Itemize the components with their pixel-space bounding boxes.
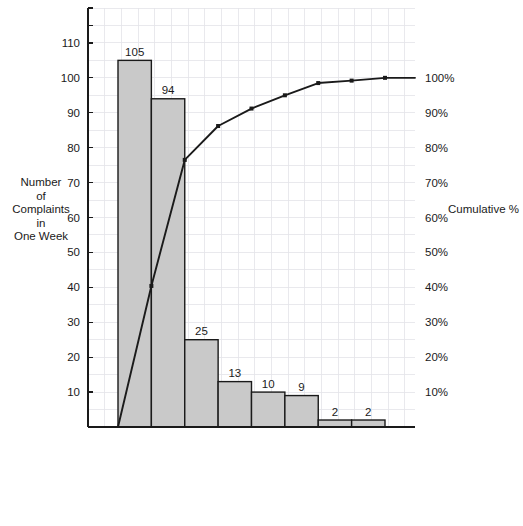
chart-canvas: 102030405060708090100110 10%20%30%40%50%… [0, 0, 523, 526]
y2-tick-label-8: 90% [425, 107, 448, 119]
right-axis-ticks: 10%20%30%40%50%60%70%80%90%100% [425, 72, 454, 398]
y2-tick-label-2: 30% [425, 316, 448, 328]
bar-7 [352, 420, 385, 427]
y-tick-label-0: 10 [67, 386, 80, 398]
bar-5 [285, 396, 318, 427]
y-tick-label-7: 80 [67, 142, 80, 154]
cumulative-marker-1 [183, 158, 187, 162]
bar-value-label-1: 94 [162, 84, 175, 96]
y2-tick-label-5: 60% [425, 212, 448, 224]
y-tick-label-3: 40 [67, 281, 80, 293]
y2-tick-label-3: 40% [425, 281, 448, 293]
y2-tick-label-1: 20% [425, 351, 448, 363]
y2-tick-label-9: 100% [425, 72, 454, 84]
y-tick-label-10: 110 [62, 37, 80, 49]
bar-value-label-7: 2 [365, 406, 371, 418]
y-axis-title-line-1: of [2, 190, 80, 204]
y-tick-label-2: 30 [67, 316, 80, 328]
cumulative-marker-6 [350, 79, 354, 83]
bar-value-label-3: 13 [228, 367, 241, 379]
y-tick-label-8: 90 [67, 107, 80, 119]
bar-value-label-6: 2 [332, 406, 338, 418]
bar-4 [252, 392, 285, 427]
bar-value-label-0: 105 [125, 46, 144, 58]
bar-6 [318, 420, 351, 427]
y2-tick-label-0: 10% [425, 386, 448, 398]
y-tick-label-4: 50 [67, 246, 80, 258]
bar-2 [185, 340, 218, 427]
cumulative-marker-0 [149, 284, 153, 288]
y2-tick-label-6: 70% [425, 177, 448, 189]
y-axis-title: NumberofComplaintsinOne Week [2, 176, 80, 244]
bar-3 [218, 382, 251, 427]
bar-value-label-5: 9 [298, 381, 304, 393]
y-tick-label-9: 100 [61, 72, 80, 84]
bars-group [118, 60, 385, 427]
y-tick-label-1: 20 [67, 351, 80, 363]
cumulative-marker-3 [250, 107, 254, 111]
cumulative-marker-5 [316, 81, 320, 85]
y-axis-title-line-3: in [2, 217, 80, 231]
y-axis-title-line-4: One Week [2, 230, 80, 244]
bar-1 [151, 99, 184, 427]
bar-value-label-2: 25 [195, 325, 208, 337]
bar-0 [118, 60, 151, 427]
pareto-chart-figure: 102030405060708090100110 10%20%30%40%50%… [0, 0, 523, 526]
y2-tick-label-4: 50% [425, 246, 448, 258]
y-axis-title-line-0: Number [2, 176, 80, 190]
y-axis-title-line-2: Complaints [2, 203, 80, 217]
bar-value-label-4: 10 [262, 378, 275, 390]
cumulative-marker-2 [216, 124, 220, 128]
cumulative-marker-4 [283, 93, 287, 97]
secondary-y-axis-title: Cumulative % [448, 203, 519, 215]
y2-tick-label-7: 80% [425, 142, 448, 154]
cumulative-marker-7 [383, 76, 387, 80]
